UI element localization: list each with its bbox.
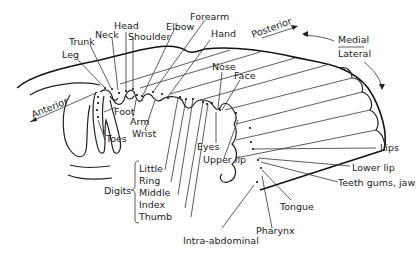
label-digit-thumb: Thumb xyxy=(138,211,172,222)
label-lips: Lips xyxy=(380,142,399,153)
label-digit-little: Little xyxy=(139,163,163,174)
label-pharynx: Pharynx xyxy=(256,225,295,236)
label-upper-lip: Upper lip xyxy=(203,154,246,165)
label-lower-lip: Lower lip xyxy=(352,162,395,173)
posterior-label: Posterior xyxy=(250,15,293,40)
anterior-curve-2 xyxy=(70,165,110,167)
label-digit-middle: Middle xyxy=(139,187,171,198)
anterior-curve-1 xyxy=(30,83,100,95)
label-shoulder: Shoulder xyxy=(128,31,170,42)
label-toes: Toes xyxy=(105,133,127,144)
label-digits: Digits xyxy=(104,185,131,196)
anterior-curve-3 xyxy=(68,175,112,179)
label-tongue: Tongue xyxy=(279,201,314,212)
label-trunk: Trunk xyxy=(68,36,95,47)
label-eyes: Eyes xyxy=(197,141,219,152)
label-nose: Nose xyxy=(212,61,236,72)
hemisphere-outline xyxy=(17,46,385,150)
label-elbow: Elbow xyxy=(166,21,194,32)
label-digit-index: Index xyxy=(139,199,166,210)
hemisphere-edge xyxy=(340,68,385,150)
digits-brace xyxy=(131,161,139,223)
label-teeth-gums-jaw: Teeth gums, jaw xyxy=(337,177,415,188)
label-hand: Hand xyxy=(211,28,236,39)
homunculus-diagram: Anterior Posterior Medial Lateral Leg Tr… xyxy=(0,0,419,262)
label-arm: Arm xyxy=(130,116,150,127)
label-wrist: Wrist xyxy=(132,128,156,139)
medial-label: Medial xyxy=(338,34,369,45)
label-face: Face xyxy=(234,70,256,81)
lateral-label: Lateral xyxy=(338,48,371,59)
surface-stripes xyxy=(120,50,376,158)
leader-lines-digits xyxy=(165,98,208,217)
label-forearm: Forearm xyxy=(190,11,229,22)
label-intra-abdominal: Intra-abdominal xyxy=(183,235,259,246)
label-digit-ring: Ring xyxy=(139,175,160,186)
label-leg: Leg xyxy=(62,49,79,60)
label-head: Head xyxy=(114,20,139,31)
